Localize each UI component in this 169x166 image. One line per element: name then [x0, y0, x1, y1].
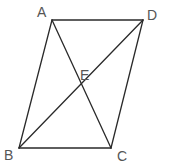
vertex-label-c: C	[117, 148, 127, 164]
segment-AB	[19, 20, 52, 148]
intersection-label-e: E	[80, 67, 89, 83]
vertex-label-d: D	[147, 7, 157, 23]
vertex-label-a: A	[37, 4, 47, 20]
geometry-diagram: A D B C E	[0, 0, 169, 166]
diagonal-BD	[19, 20, 143, 148]
segment-CD	[111, 20, 143, 148]
vertex-label-b: B	[4, 147, 13, 163]
